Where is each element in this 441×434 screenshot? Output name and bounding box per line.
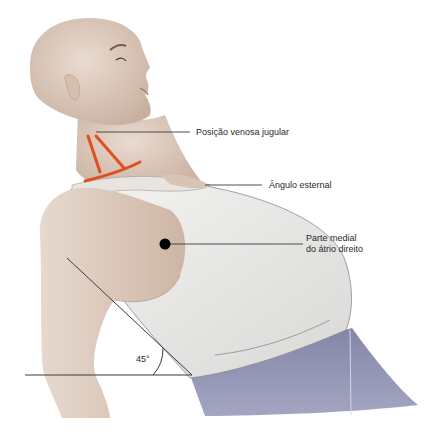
label-right-atrium: Parte medial do átrio direito (306, 233, 396, 255)
illustration (0, 0, 441, 434)
label-jugular-venous-position: Posição venosa jugular (196, 127, 289, 138)
label-sternal-angle: Ângulo esternal (269, 180, 332, 191)
label-angle-45: 45° (136, 354, 150, 365)
jvp-diagram: Posição venosa jugular Ângulo esternal P… (0, 0, 441, 434)
angle-arc (153, 348, 163, 375)
head (30, 18, 151, 125)
right-atrium-dot (160, 239, 171, 250)
label-right-atrium-line2: do átrio direito (306, 244, 396, 255)
label-right-atrium-line1: Parte medial (306, 233, 396, 244)
